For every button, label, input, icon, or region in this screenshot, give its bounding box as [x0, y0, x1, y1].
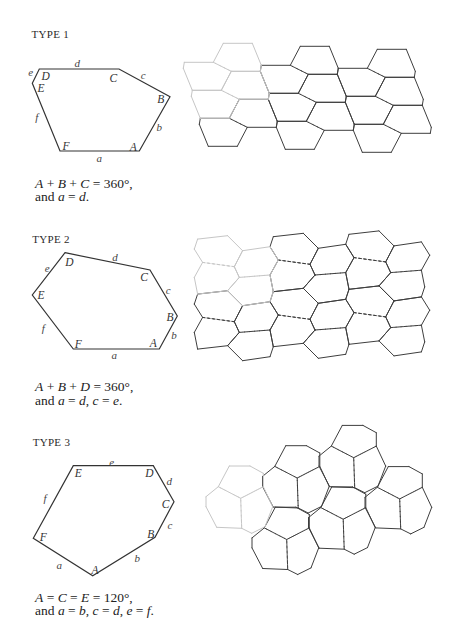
- vertex-label-C: C: [109, 72, 117, 84]
- vertex-label-B: B: [166, 311, 173, 323]
- type1-tile: [353, 124, 401, 152]
- tile-edge: [199, 118, 200, 124]
- tile-edge: [309, 508, 321, 518]
- tile-edge: [349, 231, 379, 234]
- tile-edge: [242, 528, 252, 533]
- type1-tile-highlighted: [191, 90, 239, 118]
- tile-edge: [421, 287, 424, 297]
- type1-title: TYPE 1: [32, 28, 70, 40]
- tile-edge: [368, 528, 376, 548]
- type3-tile: [354, 446, 386, 493]
- edge-label-e: e: [45, 262, 50, 274]
- tile-edge: [375, 77, 385, 96]
- tile-edge: [414, 71, 415, 77]
- edge-label-e: e: [109, 456, 114, 468]
- type1-tile: [306, 102, 354, 130]
- formula-text: = 360°,: [89, 176, 132, 191]
- tile-edge: [386, 301, 394, 317]
- tile-edge: [183, 62, 184, 68]
- tile-edge: [191, 96, 200, 118]
- type1-section: TYPE 1 DCBAFEdcbafe A + B + C = 360°, an…: [28, 28, 431, 204]
- formula-text: ,: [120, 603, 127, 618]
- tile-edge: [228, 291, 243, 306]
- tile-edge: [391, 133, 401, 152]
- tile-edge: [306, 102, 316, 121]
- type3-tiling: [206, 425, 432, 574]
- type2-tile-highlighted: [194, 236, 242, 267]
- tile-edge: [194, 304, 202, 317]
- tile-edge: [228, 346, 243, 361]
- tile-edge: [228, 236, 243, 251]
- tile-edge: [270, 237, 273, 247]
- tile-edge: [298, 74, 308, 93]
- type2-tile-highlighted: [194, 262, 239, 294]
- tile-edge: [234, 306, 242, 322]
- tile-edge: [422, 105, 431, 127]
- type3-tile: [263, 466, 299, 508]
- type2-tile: [346, 231, 394, 262]
- tile-edge: [250, 466, 263, 473]
- type2-tile: [270, 233, 318, 264]
- type3-hexagon-diagram: EDCBAFedcbaf: [33, 456, 174, 576]
- tile-edge: [194, 262, 202, 277]
- tile-edge: [422, 99, 423, 105]
- edge-label-f: f: [42, 322, 47, 334]
- type3-tile: [309, 508, 345, 550]
- tile-edge: [411, 527, 424, 534]
- type2-tile: [346, 286, 394, 317]
- tile-edge: [310, 303, 318, 319]
- tile-edge: [221, 71, 231, 90]
- tile-edge: [401, 529, 411, 534]
- vertex-label-F: F: [61, 140, 70, 152]
- tile-edge: [379, 328, 391, 341]
- vertex-label-A: A: [149, 337, 158, 349]
- vertex-label-C: C: [162, 498, 170, 510]
- tile-edge: [346, 344, 349, 354]
- edge-label-e: e: [28, 66, 33, 78]
- type1-tile: [375, 77, 423, 105]
- type2-tile: [270, 288, 318, 319]
- vertex-label-D: D: [144, 467, 154, 479]
- tile-edge: [346, 313, 354, 328]
- edge-label-d: d: [75, 57, 81, 69]
- edge-label-d: d: [167, 475, 173, 487]
- tile-edge: [243, 302, 270, 306]
- vertex-label-A: A: [129, 141, 138, 153]
- type1-tile: [383, 105, 431, 133]
- tile-edge: [406, 49, 415, 71]
- vertex-label-B: B: [147, 528, 154, 540]
- tile-edge: [329, 46, 338, 68]
- tile-edge: [194, 332, 197, 349]
- tile-edge: [354, 548, 367, 555]
- tile-edge: [331, 425, 342, 446]
- tile-edge: [310, 319, 315, 330]
- tile-edge: [237, 127, 247, 146]
- tile-edge: [194, 239, 197, 249]
- type3-tile-highlighted: [241, 487, 273, 534]
- tile-edge: [346, 258, 354, 273]
- tile-edge: [307, 446, 320, 453]
- tile-edge: [263, 569, 288, 570]
- formula-text: =: [65, 603, 79, 618]
- type1-tile: [367, 49, 415, 77]
- tile-edge: [379, 231, 394, 246]
- tile-edge: [424, 507, 432, 527]
- type2-tile: [303, 273, 349, 304]
- tile-edge: [270, 330, 273, 347]
- tile-edge: [421, 242, 429, 255]
- type1-tile: [229, 99, 277, 127]
- tile-edge: [345, 102, 354, 124]
- type2-tile: [379, 270, 425, 301]
- type2-tile: [346, 258, 391, 290]
- figure-page: TYPE 1 DCBAFEdcbafe A + B + C = 360°, an…: [0, 0, 461, 628]
- type2-tile: [346, 313, 391, 345]
- type2-tile: [386, 297, 430, 328]
- tile-edge: [290, 46, 300, 65]
- vertex-label-E: E: [36, 82, 44, 94]
- tile-edge: [319, 466, 330, 487]
- tile-edge: [363, 425, 376, 432]
- tile-edge: [319, 446, 331, 456]
- type3-tile: [275, 446, 320, 478]
- formula-text: ,: [86, 393, 93, 408]
- edge-label-c: c: [168, 519, 173, 531]
